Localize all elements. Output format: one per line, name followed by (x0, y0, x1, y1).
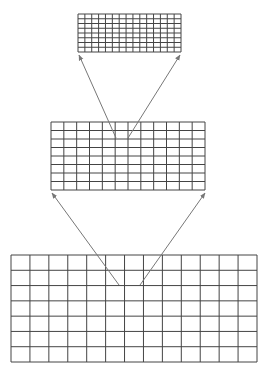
level-top-grid (78, 14, 181, 52)
level-middle-grid (51, 122, 205, 190)
grid-levels (11, 14, 257, 362)
arrow-middle-to-top-left-icon (79, 55, 116, 138)
level-bottom-grid (11, 255, 257, 362)
arrow-bottom-to-middle-left-icon (52, 193, 119, 285)
arrow-bottom-to-middle-right-icon (140, 193, 205, 285)
pyramid-diagram (0, 0, 271, 373)
